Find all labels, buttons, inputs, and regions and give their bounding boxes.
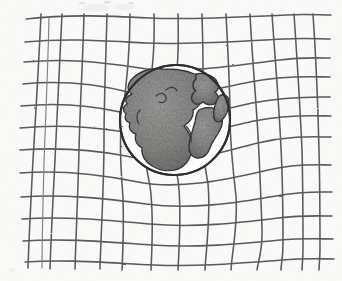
earth-globe — [120, 65, 230, 175]
spacetime-curvature-figure: Spacetime curvature around Earth A hand-… — [0, 0, 342, 281]
landmass-europe — [192, 73, 219, 104]
spacetime-sketch-canvas — [0, 0, 342, 281]
